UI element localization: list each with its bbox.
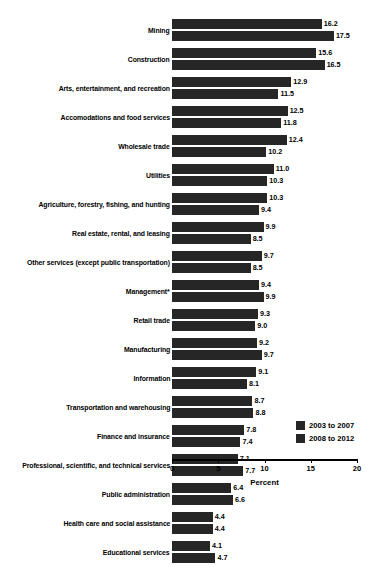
- bar: [172, 524, 213, 534]
- bar: [172, 309, 258, 319]
- bar: [172, 234, 251, 244]
- x-axis-tick: [172, 459, 173, 463]
- bar: [172, 350, 262, 360]
- bar-series-1: 11.0: [172, 164, 376, 174]
- category-label: Management*: [126, 277, 170, 306]
- bar-series-1: 9.1: [172, 367, 376, 377]
- bar: [172, 251, 262, 261]
- bar: [172, 19, 322, 29]
- bar: [172, 193, 267, 203]
- category-label: Wholesale trade: [119, 132, 170, 161]
- legend-label: 2003 to 2007: [309, 421, 354, 430]
- bar-value-label: 11.5: [278, 89, 294, 99]
- legend-label: 2008 to 2012: [309, 434, 354, 443]
- legend-item: 2003 to 2007: [296, 419, 354, 432]
- x-axis-tick: [311, 459, 312, 463]
- x-axis-tick-label: 0: [170, 464, 174, 473]
- bar-group: 9.49.9: [172, 277, 376, 306]
- bar-value-label: 9.0: [255, 321, 267, 331]
- bar-series-2: 9.7: [172, 350, 376, 360]
- bar-group: 9.29.7: [172, 335, 376, 364]
- bar: [172, 321, 255, 331]
- bar-group: 15.616.5: [172, 45, 376, 74]
- bar-group: 9.98.5: [172, 219, 376, 248]
- bar: [172, 466, 243, 476]
- bar: [172, 292, 264, 302]
- bar-group: 12.511.8: [172, 103, 376, 132]
- bar-value-label: 9.3: [258, 309, 270, 319]
- bar-value-label: 8.1: [247, 379, 259, 389]
- category-label: Arts, entertainment, and recreation: [59, 74, 170, 103]
- chart-row: Mining16.217.5: [0, 16, 376, 45]
- bar: [172, 135, 287, 145]
- bar: [172, 176, 267, 186]
- category-label: Information: [133, 364, 170, 393]
- bar-series-1: 15.6: [172, 48, 376, 58]
- bar-value-label: 9.9: [264, 292, 276, 302]
- bar-series-2: 9.4: [172, 205, 376, 215]
- bar-group: 12.410.2: [172, 132, 376, 161]
- bar: [172, 77, 291, 87]
- chart-legend: 2003 to 20072008 to 2012: [296, 419, 354, 445]
- bar: [172, 367, 256, 377]
- bar: [172, 541, 210, 551]
- bar-value-label: 12.5: [288, 106, 304, 116]
- bar-value-label: 8.5: [251, 234, 263, 244]
- bar-group: 11.010.3: [172, 161, 376, 190]
- bar-series-2: 8.1: [172, 379, 376, 389]
- bar-series-2: 9.9: [172, 292, 376, 302]
- bar: [172, 280, 259, 290]
- chart-row: Arts, entertainment, and recreation12.91…: [0, 74, 376, 103]
- bar-series-1: 9.2: [172, 338, 376, 348]
- category-label: Public administration: [102, 480, 170, 509]
- bar: [172, 118, 281, 128]
- bar-group: 8.78.8: [172, 393, 376, 422]
- bar-series-1: 9.9: [172, 222, 376, 232]
- legend-swatch-icon: [296, 421, 305, 430]
- bar: [172, 263, 251, 273]
- category-label: Other services (except public transporta…: [27, 248, 170, 277]
- bar-series-2: 6.6: [172, 495, 376, 505]
- category-label: Transportation and warehousing: [66, 393, 170, 422]
- bar-value-label: 7.7: [243, 466, 255, 476]
- chart-row: Accomodations and food services12.511.8: [0, 103, 376, 132]
- bar-value-label: 4.4: [213, 512, 225, 522]
- chart-row: Information9.18.1: [0, 364, 376, 393]
- bar-value-label: 9.9: [264, 222, 276, 232]
- bar-group: 4.44.4: [172, 509, 376, 538]
- x-axis-title: Percent: [172, 478, 357, 487]
- bar-series-1: 8.7: [172, 396, 376, 406]
- chart-row: Professional, scientific, and technical …: [0, 451, 376, 480]
- bar-value-label: 15.6: [316, 48, 332, 58]
- bar-value-label: 11.8: [281, 118, 297, 128]
- legend-swatch-icon: [296, 434, 305, 443]
- bar-value-label: 4.4: [213, 524, 225, 534]
- bar-value-label: 12.4: [287, 135, 303, 145]
- bar: [172, 408, 253, 418]
- category-label: Construction: [128, 45, 170, 74]
- chart-row: Management*9.49.9: [0, 277, 376, 306]
- bar-group: 10.39.4: [172, 190, 376, 219]
- x-axis-tick-label: 5: [216, 464, 220, 473]
- chart-row: Real estate, rental, and leasing9.98.5: [0, 219, 376, 248]
- category-label: Accomodations and food services: [61, 103, 170, 132]
- bar-group: 9.39.0: [172, 306, 376, 335]
- bar-series-2: 7.7: [172, 466, 376, 476]
- category-label: Manufacturing: [124, 335, 170, 364]
- bar: [172, 106, 288, 116]
- bar: [172, 495, 233, 505]
- category-label: Educational services: [103, 538, 170, 567]
- bar: [172, 60, 325, 70]
- bar-group: 7.17.7: [172, 451, 376, 480]
- bar-value-label: 4.1: [210, 541, 222, 551]
- chart-row: Educational services4.14.7: [0, 538, 376, 567]
- bar: [172, 205, 259, 215]
- bar-series-1: 9.3: [172, 309, 376, 319]
- x-axis-tick: [218, 459, 219, 463]
- bar: [172, 396, 252, 406]
- bar-series-1: 9.4: [172, 280, 376, 290]
- bar: [172, 553, 215, 563]
- bar-value-label: 7.4: [240, 437, 252, 447]
- category-label: Finance and insurance: [97, 422, 170, 451]
